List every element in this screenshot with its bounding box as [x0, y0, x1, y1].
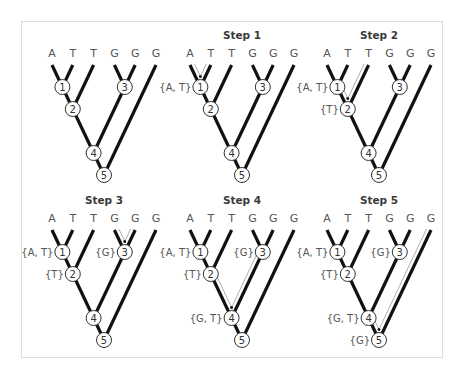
arrow — [232, 251, 259, 308]
leaf-label: T — [343, 47, 351, 60]
panel-step-3: Step 3ATTGGG1{A, T}2{T}3{G}45 — [21, 194, 160, 348]
node-1: 1 — [55, 80, 70, 95]
node-5: 5 — [97, 168, 112, 183]
node-2: 2{T} — [45, 267, 80, 282]
node-3: 3{G} — [95, 245, 132, 260]
node-number: 1 — [334, 82, 340, 93]
leaf-label: A — [48, 212, 56, 225]
node-5: 5 — [235, 168, 250, 183]
panel-title: Step 1 — [223, 29, 261, 41]
node-number: 5 — [239, 335, 245, 346]
state-set-label: {G} — [350, 335, 370, 346]
node-number: 5 — [376, 335, 382, 346]
leaf-label: T — [89, 47, 97, 60]
node-number: 4 — [228, 313, 234, 324]
state-set-label: {G, T} — [327, 313, 360, 324]
panel-step-4: Step 4ATTGGG1{A, T}2{T}3{G}4{G, T}5 — [159, 194, 298, 348]
panel-step-2: Step 2ATTGGG1{A, T}2{T}345 — [296, 29, 435, 183]
node-number: 1 — [59, 247, 65, 258]
panel-title: Step 4 — [223, 194, 261, 206]
leaf-label: T — [343, 212, 351, 225]
node-2: 2{T} — [320, 267, 355, 282]
state-set-label: {A, T} — [21, 247, 53, 258]
node-4: 4 — [86, 311, 101, 326]
node-5: 5{G} — [350, 333, 387, 348]
panel-step-5: Step 5ATTGGG1{A, T}2{T}3{G}4{G, T}5{G} — [296, 194, 435, 348]
leaf-label: T — [364, 212, 372, 225]
state-set-label: {T} — [320, 269, 339, 280]
leaf-label: G — [290, 47, 299, 60]
leaf-label: G — [406, 47, 415, 60]
parsimony-steps-figure: ATTGGG12345Step 1ATTGGG1{A, T}2345Step 2… — [0, 0, 461, 372]
arrow-head-dot — [346, 97, 349, 100]
node-4: 4 — [86, 146, 101, 161]
state-set-label: {T} — [320, 104, 339, 115]
node-5: 5 — [372, 168, 387, 183]
state-set-label: {G} — [370, 247, 390, 258]
state-set-label: {A, T} — [159, 247, 191, 258]
node-3: 3{G} — [233, 245, 270, 260]
node-number: 4 — [90, 313, 96, 324]
panel-tree: ATTGGG12345 — [48, 47, 160, 183]
state-set-label: {A, T} — [159, 82, 191, 93]
leaf-label: G — [427, 212, 436, 225]
node-4: 4{G, T} — [327, 311, 376, 326]
leaf-label: G — [269, 212, 278, 225]
leaf-label: T — [68, 212, 76, 225]
node-number: 5 — [239, 170, 245, 181]
node-number: 4 — [90, 148, 96, 159]
leaf-label: G — [248, 212, 257, 225]
node-1: 1{A, T} — [159, 80, 208, 95]
node-number: 1 — [197, 247, 203, 258]
leaf-label: A — [323, 212, 331, 225]
node-number: 2 — [208, 269, 214, 280]
node-5: 5 — [97, 333, 112, 348]
node-number: 2 — [208, 104, 214, 115]
node-number: 5 — [376, 170, 382, 181]
node-4: 4 — [224, 146, 239, 161]
leaf-label: T — [227, 212, 235, 225]
panel-step-1: Step 1ATTGGG1{A, T}2345 — [159, 29, 298, 183]
node-number: 2 — [345, 269, 351, 280]
node-number: 1 — [59, 82, 65, 93]
panels: ATTGGG12345Step 1ATTGGG1{A, T}2345Step 2… — [21, 29, 435, 348]
node-3: 3 — [117, 80, 132, 95]
node-number: 3 — [397, 82, 403, 93]
leaf-label: G — [248, 47, 257, 60]
leaf-label: A — [323, 47, 331, 60]
leaf-label: G — [385, 212, 394, 225]
leaf-label: T — [227, 47, 235, 60]
arrow-head-dot — [199, 75, 202, 78]
node-number: 3 — [260, 247, 266, 258]
node-number: 3 — [122, 82, 128, 93]
node-3: 3{G} — [370, 245, 407, 260]
leaf-label: A — [186, 212, 194, 225]
node-2: 2 — [65, 102, 80, 117]
node-2: 2 — [203, 102, 218, 117]
leaf-label: A — [48, 47, 56, 60]
leaf-label: G — [152, 47, 161, 60]
arrow-head-dot — [378, 328, 381, 331]
node-2: 2{T} — [183, 267, 218, 282]
node-number: 2 — [70, 104, 76, 115]
panel-title: Step 3 — [85, 194, 123, 206]
node-4: 4 — [361, 146, 376, 161]
state-set-label: {T} — [45, 269, 64, 280]
state-set-label: {G, T} — [190, 313, 223, 324]
node-number: 3 — [122, 247, 128, 258]
leaf-label: T — [364, 47, 372, 60]
leaf-label: G — [152, 212, 161, 225]
state-set-label: {A, T} — [296, 82, 328, 93]
leaf-label: T — [206, 47, 214, 60]
node-5: 5 — [235, 333, 250, 348]
node-number: 1 — [197, 82, 203, 93]
leaf-label: G — [290, 212, 299, 225]
node-4: 4{G, T} — [190, 311, 239, 326]
node-number: 4 — [365, 148, 371, 159]
leaf-label: G — [110, 47, 119, 60]
leaf-label: T — [206, 212, 214, 225]
leaf-label: A — [186, 47, 194, 60]
node-number: 5 — [101, 170, 107, 181]
leaf-label: G — [110, 212, 119, 225]
node-1: 1{A, T} — [296, 80, 345, 95]
